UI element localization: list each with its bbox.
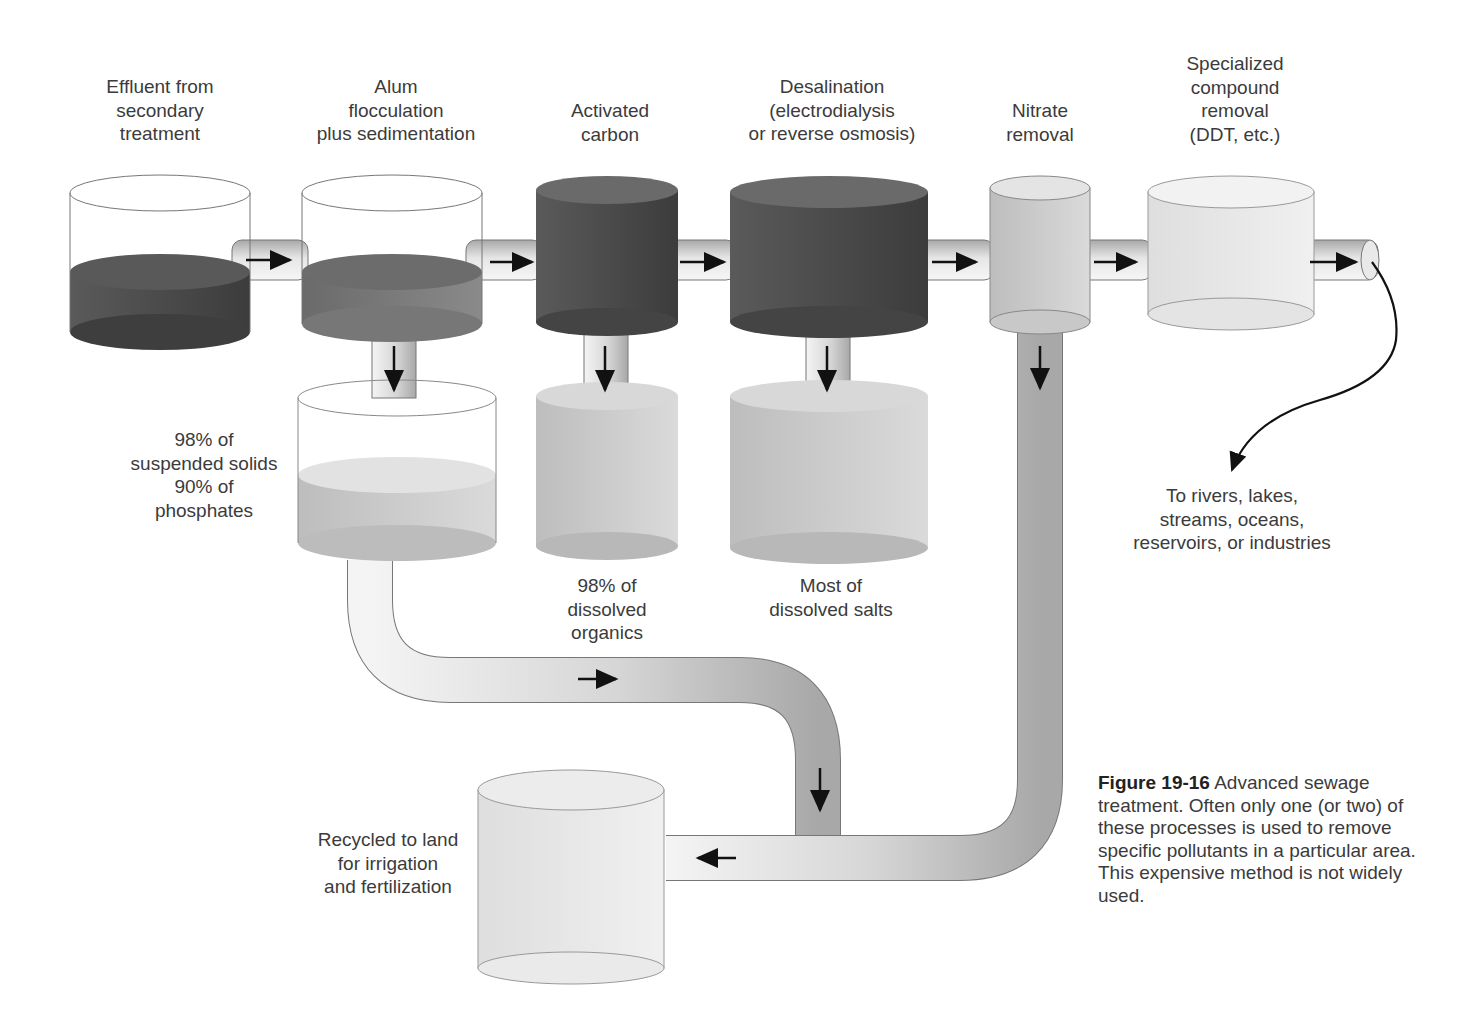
tank-effluent xyxy=(70,175,250,350)
label-removed-solids: 98% of suspended solids 90% of phosphate… xyxy=(106,428,302,522)
tank-salts-collection xyxy=(730,380,928,564)
figure-caption: Figure 19-16 Advanced sewage treatment. … xyxy=(1098,772,1418,907)
label-removed-salts: Most of dissolved salts xyxy=(736,574,926,621)
tank-organics-collection xyxy=(536,382,678,560)
label-removed-organics: 98% of dissolved organics xyxy=(530,574,684,645)
label-activated-carbon: Activated carbon xyxy=(540,99,680,146)
label-recycle: Recycled to land for irrigation and fert… xyxy=(300,828,476,899)
label-effluent: Effluent from secondary treatment xyxy=(80,75,240,146)
tank-alum xyxy=(302,175,482,342)
tank-activated-carbon xyxy=(536,176,678,336)
label-nitrate: Nitrate removal xyxy=(980,99,1100,146)
recycle-pipes xyxy=(370,330,1040,858)
figure-number: Figure 19-16 xyxy=(1098,772,1210,793)
label-alum: Alum flocculation plus sedimentation xyxy=(296,75,496,146)
tank-recycle xyxy=(478,770,664,984)
tank-nitrate xyxy=(990,176,1090,334)
tank-desalination xyxy=(730,176,928,338)
label-specialized: Specialized compound removal (DDT, etc.) xyxy=(1150,52,1320,146)
label-discharge: To rivers, lakes, streams, oceans, reser… xyxy=(1120,484,1344,555)
tank-solids-collection xyxy=(298,380,496,561)
tank-specialized xyxy=(1148,176,1314,330)
label-desalination: Desalination (electrodialysis or reverse… xyxy=(724,75,940,146)
